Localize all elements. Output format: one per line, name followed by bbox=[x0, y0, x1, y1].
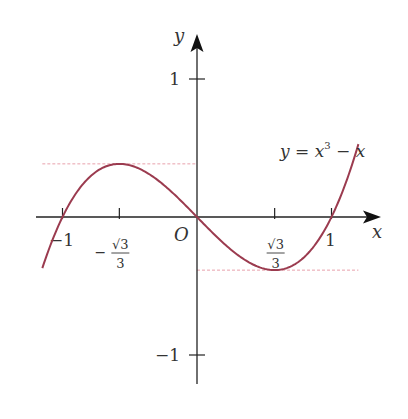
x-tick-label-sign: − bbox=[95, 244, 107, 260]
function-label-lhs: y = x bbox=[279, 141, 325, 161]
x-tick-label: 1 bbox=[325, 230, 336, 250]
x-tick-label-numerator: √3 bbox=[112, 237, 129, 252]
function-label-rhs: − x bbox=[331, 141, 366, 161]
y-tick-label: −1 bbox=[155, 345, 180, 365]
x-tick-label-numerator: √3 bbox=[267, 237, 284, 252]
origin-label: O bbox=[174, 224, 189, 245]
function-label: y = x3 − x bbox=[279, 140, 366, 161]
x-tick-label-denominator: 3 bbox=[272, 256, 280, 271]
x-tick-label-denominator: 3 bbox=[116, 256, 124, 271]
y-tick-label: 1 bbox=[169, 69, 180, 89]
y-axis-label: y bbox=[173, 25, 185, 46]
function-curve bbox=[42, 144, 358, 270]
cubic-function-plot: −1√33−√331 1−1 x y O y = x3 − x bbox=[0, 0, 408, 419]
y-axis bbox=[191, 34, 204, 384]
x-axis-label: x bbox=[372, 221, 382, 242]
